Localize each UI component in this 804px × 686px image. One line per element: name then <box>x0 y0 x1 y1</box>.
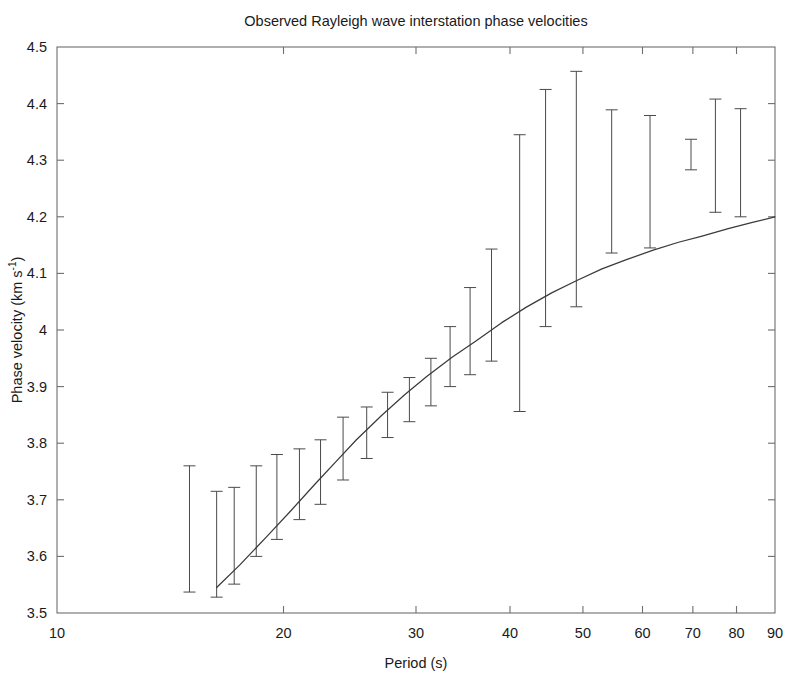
x-tick-label: 90 <box>767 625 783 641</box>
y-tick-label: 3.5 <box>27 605 47 621</box>
y-axis-label: Phase velocity (km s-1) <box>7 257 25 404</box>
plot-area-border <box>57 47 775 613</box>
x-tick-label: 50 <box>575 625 591 641</box>
phase-velocity-chart: 102030405060708090 3.53.63.73.83.944.14.… <box>0 0 804 686</box>
plot-frame <box>57 47 775 613</box>
y-tick-label: 4.1 <box>27 265 47 281</box>
y-tick-label: 3.9 <box>27 379 47 395</box>
x-tick-label: 70 <box>685 625 701 641</box>
y-axis-label-tail: ) <box>9 257 25 262</box>
y-tick-label: 4.2 <box>27 209 47 225</box>
x-tick-label: 60 <box>634 625 650 641</box>
figure-container: 102030405060708090 3.53.63.73.83.944.14.… <box>0 0 804 686</box>
y-tick-label: 4.4 <box>27 96 47 112</box>
x-tick-label: 20 <box>275 625 291 641</box>
y-axis-label-main: Phase velocity (km s <box>9 270 25 403</box>
chart-title: Observed Rayleigh wave interstation phas… <box>244 13 587 29</box>
y-tick-label: 3.6 <box>27 548 47 564</box>
y-tick-label: 4 <box>39 322 47 338</box>
y-tick-label: 3.8 <box>27 435 47 451</box>
y-tick-label: 4.5 <box>27 39 47 55</box>
svg-text:Phase velocity (km s-1): Phase velocity (km s-1) <box>7 257 25 404</box>
x-tick-label: 30 <box>408 625 424 641</box>
x-tick-label: 80 <box>728 625 744 641</box>
x-tick-label: 40 <box>502 625 518 641</box>
x-axis-label: Period (s) <box>385 655 448 671</box>
y-tick-label: 4.3 <box>27 152 47 168</box>
x-tick-label: 10 <box>49 625 65 641</box>
y-tick-label: 3.7 <box>27 492 47 508</box>
